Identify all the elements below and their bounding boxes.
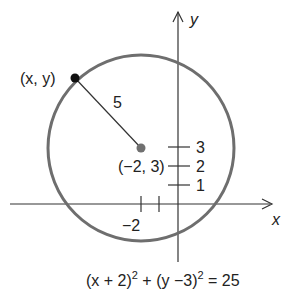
- equation: (x + 2)2 + (y −3)2 = 25: [86, 269, 240, 289]
- point-xy: [71, 74, 80, 83]
- equation-part1: (x + 2): [86, 272, 132, 289]
- radius-label: 5: [113, 94, 122, 111]
- x-tick-label-neg2: −2: [122, 217, 140, 234]
- radius-line: [75, 78, 141, 148]
- x-axis-label: x: [271, 211, 281, 228]
- y-tick-label-2: 2: [196, 158, 205, 175]
- y-axis-label: y: [189, 11, 199, 28]
- y-tick-label-3: 3: [196, 139, 205, 156]
- center-label: (−2, 3): [118, 158, 165, 175]
- equation-part3: = 25: [204, 272, 240, 289]
- point-label: (x, y): [20, 70, 56, 87]
- y-tick-label-1: 1: [196, 177, 205, 194]
- equation-part2: + (y −3): [138, 272, 198, 289]
- circle-diagram: y x (x, y) 5 (−2, 3) 3 2 1 −2 (x + 2)2 +…: [0, 0, 295, 303]
- center-point: [137, 144, 146, 153]
